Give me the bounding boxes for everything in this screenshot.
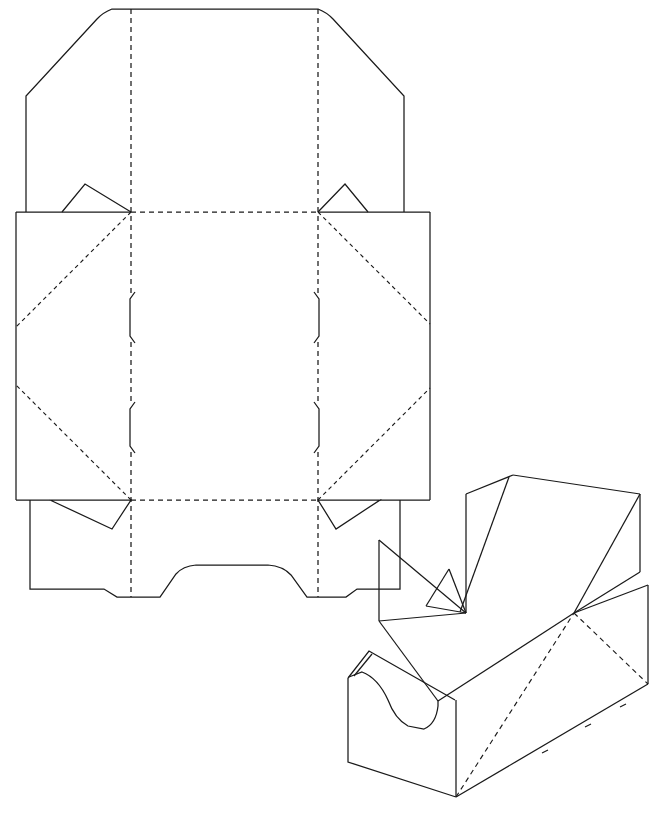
dieline-diagram-page — [0, 0, 659, 815]
drawing-background — [0, 0, 659, 815]
dieline-drawing — [0, 0, 659, 815]
